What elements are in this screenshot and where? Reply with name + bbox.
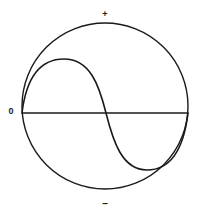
diagram-canvas xyxy=(0,0,204,217)
sine-wave-diagram-figure: 0 + – xyxy=(0,0,204,217)
negative-pole-label: – xyxy=(95,199,115,209)
zero-axis-label: 0 xyxy=(4,105,18,117)
positive-pole-label: + xyxy=(95,9,115,19)
figure-background xyxy=(0,0,204,217)
